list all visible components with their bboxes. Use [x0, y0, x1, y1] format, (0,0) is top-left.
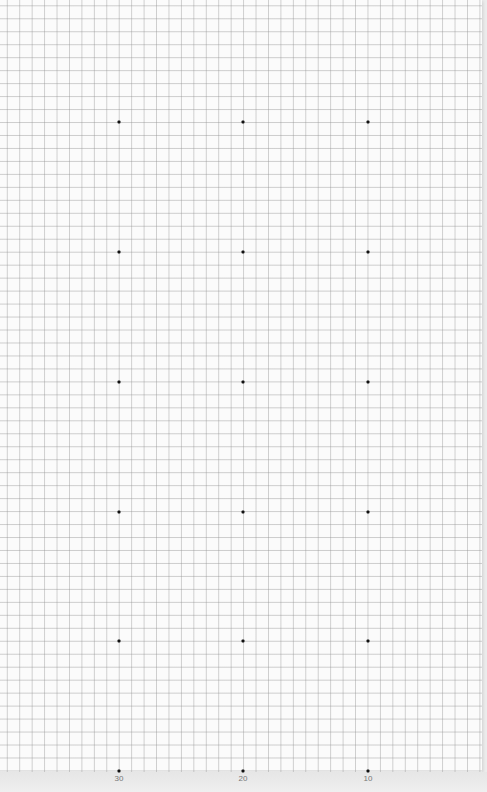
data-point: [242, 251, 245, 254]
x-tick-label-30: 30: [115, 774, 124, 783]
data-point: [242, 511, 245, 514]
data-point: [118, 381, 121, 384]
data-point: [242, 121, 245, 124]
graph-paper: [0, 0, 482, 772]
data-point: [242, 770, 245, 773]
data-point: [367, 640, 370, 643]
data-point: [367, 121, 370, 124]
data-point: [367, 251, 370, 254]
data-point: [242, 381, 245, 384]
data-point: [367, 770, 370, 773]
data-point: [367, 511, 370, 514]
data-point: [118, 121, 121, 124]
x-tick-label-20: 20: [239, 774, 248, 783]
data-point: [242, 640, 245, 643]
data-point: [118, 511, 121, 514]
x-tick-label-10: 10: [364, 774, 373, 783]
data-point: [118, 770, 121, 773]
data-point: [118, 640, 121, 643]
data-point: [118, 251, 121, 254]
data-point: [367, 381, 370, 384]
